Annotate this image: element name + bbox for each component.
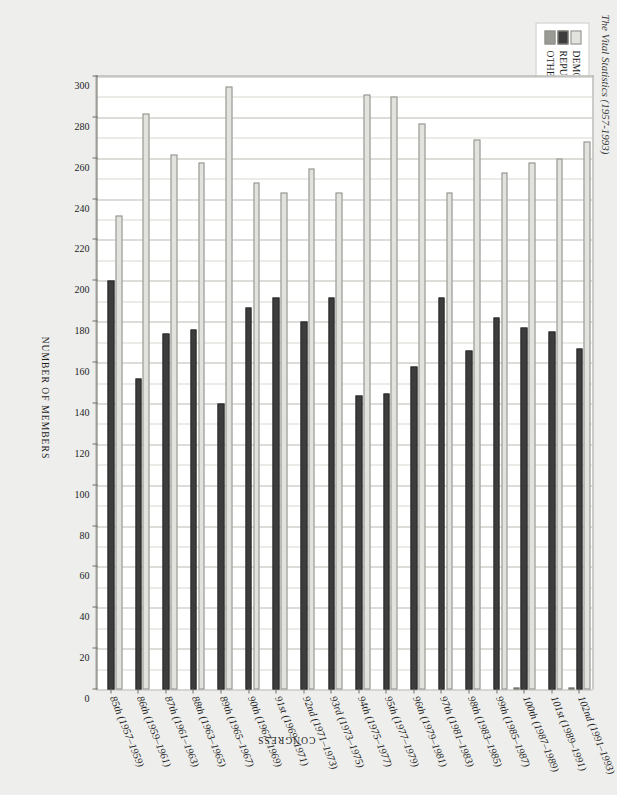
bar-group: [179, 76, 207, 689]
value-tick-label: 220: [74, 242, 89, 253]
value-axis-line: [96, 75, 97, 689]
bar-republicans: [272, 297, 279, 689]
value-tick: [92, 279, 97, 280]
legend-swatch-democrats: [570, 30, 581, 44]
bar-group: [482, 76, 510, 689]
category-tick: [275, 688, 276, 693]
bar-republicans: [520, 327, 527, 689]
value-tick-label: 160: [74, 365, 89, 376]
bar-democrats: [142, 113, 149, 689]
bar-group: [96, 76, 124, 689]
value-axis-title: NUMBER OF MEMBERS: [39, 0, 49, 795]
value-tick: [92, 198, 97, 199]
category-tick: [220, 688, 221, 693]
bar-group: [206, 76, 234, 689]
value-tick-label: 100: [74, 488, 89, 499]
bar-group: [124, 76, 152, 689]
bar-group: [454, 76, 482, 689]
category-axis-title: CONGRESS: [257, 734, 315, 744]
bar-republicans: [107, 280, 114, 689]
category-tick: [413, 688, 414, 693]
bar-group: [344, 76, 372, 689]
category-tick: [440, 688, 441, 693]
value-tick-label: 180: [74, 324, 89, 335]
bar-democrats: [390, 96, 397, 689]
value-tick-label: 80: [79, 529, 89, 540]
bar-democrats: [170, 154, 177, 689]
bar-republicans: [493, 317, 500, 689]
bar-group: [151, 76, 179, 689]
bar-democrats: [280, 192, 287, 689]
bars-container: [96, 76, 592, 689]
value-tick: [92, 484, 97, 485]
bar-democrats: [473, 139, 480, 689]
bar-democrats: [501, 172, 508, 689]
value-tick: [92, 116, 97, 117]
category-tick: [496, 688, 497, 693]
bar-democrats: [225, 86, 232, 689]
category-tick: [137, 688, 138, 693]
value-tick: [92, 402, 97, 403]
value-tick: [92, 647, 97, 648]
bar-republicans: [190, 329, 197, 689]
bar-group: [372, 76, 400, 689]
bar-group: [564, 76, 592, 689]
bar-republicans: [410, 366, 417, 689]
bar-republicans: [300, 321, 307, 689]
value-tick: [92, 606, 97, 607]
value-tick-label: 20: [79, 651, 89, 662]
value-tick-label: 280: [74, 120, 89, 131]
bar-democrats: [363, 94, 370, 689]
value-tick: [92, 157, 97, 158]
bar-group: [316, 76, 344, 689]
bar-democrats: [198, 162, 205, 689]
bar-democrats: [446, 192, 453, 689]
bar-republicans: [217, 403, 224, 689]
category-tick: [110, 688, 111, 693]
bar-democrats: [583, 141, 590, 689]
category-tick: [248, 688, 249, 693]
category-tick: [330, 688, 331, 693]
value-tick-label: 0: [84, 692, 89, 703]
value-tick: [92, 525, 97, 526]
bar-democrats: [528, 162, 535, 689]
bar-group: [509, 76, 537, 689]
category-tick: [165, 688, 166, 693]
bar-other: [513, 687, 520, 690]
bar-democrats: [115, 215, 122, 689]
value-tick-label: 240: [74, 202, 89, 213]
bar-group: [399, 76, 427, 689]
value-tick-label: 40: [79, 610, 89, 621]
value-tick: [92, 565, 97, 566]
value-tick-label: 60: [79, 569, 89, 580]
chart-title: The Vital Statistics (1957-1993): [599, 14, 611, 154]
bar-republicans: [162, 333, 169, 689]
category-tick: [358, 688, 359, 693]
bar-democrats: [556, 158, 563, 689]
category-tick: [523, 688, 524, 693]
value-tick-label: 260: [74, 161, 89, 172]
category-tick: [468, 688, 469, 693]
bar-republicans: [383, 393, 390, 689]
legend-swatch-republicans: [557, 30, 568, 44]
plot-area: [95, 75, 593, 689]
bar-democrats: [335, 192, 342, 689]
bar-democrats: [308, 168, 315, 689]
bar-republicans: [245, 307, 252, 689]
category-tick: [578, 688, 579, 693]
value-tick-label: 200: [74, 283, 89, 294]
category-tick: [551, 688, 552, 693]
value-tick: [92, 320, 97, 321]
bar-republicans: [355, 395, 362, 689]
value-tick: [92, 443, 97, 444]
bar-group: [427, 76, 455, 689]
bar-republicans: [576, 348, 583, 689]
legend-swatch-other: [544, 30, 555, 44]
bar-other: [568, 687, 575, 690]
category-tick: [303, 688, 304, 693]
bar-democrats: [418, 123, 425, 689]
value-tick: [92, 361, 97, 362]
bar-group: [261, 76, 289, 689]
value-tick-label: 120: [74, 447, 89, 458]
